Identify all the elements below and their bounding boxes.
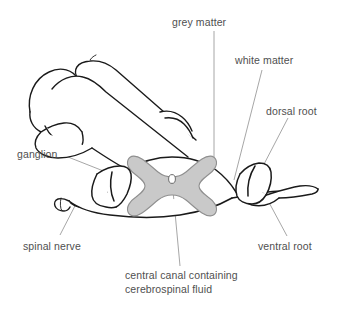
label-central-canal-line2: cerebrospinal fluid — [125, 283, 212, 296]
cord-surface-tick-a — [90, 55, 96, 60]
spinal-cord-diagram: grey matter white matter dorsal root gan… — [0, 0, 341, 315]
label-ventral-root: ventral root — [258, 240, 312, 253]
label-ganglion: ganglion — [17, 148, 58, 161]
label-white-matter: white matter — [235, 54, 293, 67]
central-canal-opening — [169, 175, 176, 184]
label-dorsal-root: dorsal root — [266, 105, 317, 118]
label-central-canal-line1: central canal containing — [125, 269, 238, 282]
spinal-nerve-cap — [55, 199, 70, 211]
leader-dorsal-root — [262, 118, 288, 168]
label-spinal-nerve: spinal nerve — [23, 240, 81, 253]
spinal-nerve-stub — [55, 198, 70, 211]
cord-left-cap-lower — [30, 112, 41, 132]
label-grey-matter: grey matter — [172, 16, 226, 29]
